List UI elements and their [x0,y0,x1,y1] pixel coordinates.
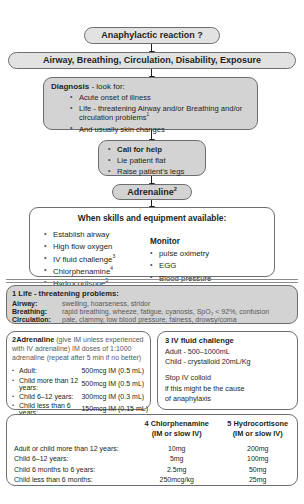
hydrocortisone-dose: 25mg [218,474,297,484]
table-row: Child 6–12 years: 300mcg IM (0.3 mL) [11,392,148,401]
iv-fluid-line: Adult - 500–1000mL [158,347,297,356]
dose-group: Child more than 12 years: [11,375,81,391]
node-abcde-assessment: Airway, Breathing, Circulation, Disabili… [8,52,296,69]
table-row: Adult or child more than 12 years: 10mg … [7,438,297,454]
list-item: Raise patient's legs [108,167,205,176]
chlorphenamine-dose: 250mcg/kg [135,474,218,484]
adrenaline-box-heading: 2Adrenaline (give IM unless experienced … [7,332,150,362]
panel-chlorphenamine-hydrocortisone-table: 4 Chlorphenamine (IM or slow IV) 5 Hydro… [6,414,298,486]
row-value: swelling, hoarseness, stridor [62,300,269,308]
row-key: Airway: [12,300,62,308]
panel-adrenaline-dosing: 2Adrenaline (give IM unless experienced … [6,331,151,410]
node-adrenaline: Adrenaline2 [112,184,192,200]
table-row: Breathing: rapid breathing, wheeze, fati… [12,308,269,316]
table-row: Adult: 500mcg IM (0.5 mL) [11,366,148,375]
panel-life-threatening-problems: 1 Life - threatening problems: Airway: s… [6,285,298,324]
row-value: rapid breathing, wheeze, fatigue, cyanos… [62,308,269,316]
divider-rule-top [6,279,298,280]
table-row: Child more than 12 years: 500mcg IM (0.5… [11,375,148,391]
table-row: Airway: swelling, hoarseness, stridor [12,300,269,308]
skills-heading: When skills and equipment available: [30,208,274,223]
dose-group: Adult: [11,366,81,375]
table-row: Child 6 months to 6 years: 2.5mg 50mg [7,464,297,474]
row-label: Child 6 months to 6 years: [7,464,135,474]
node-abcde-label: Airway, Breathing, Circulation, Disabili… [9,53,295,68]
node-anaphylactic-reaction: Anaphylactic reaction ? [84,27,220,44]
anaphylaxis-algorithm-page: Anaphylactic reaction ? Airway, Breathin… [0,0,304,504]
column-header-blank [7,415,135,438]
dose-value: 500mcg IM (0.5 mL) [81,375,148,391]
row-value: pale, clammy, low blood pressure, faines… [62,316,269,324]
chlorphenamine-number: 4 [144,419,148,428]
list-item: High flow oxygen [44,242,150,251]
adrenaline-box-note3: 5 min if no better) [87,354,141,361]
diagnosis-item-2-text: Life - threatening Airway and/or Breathi… [79,104,242,122]
arrow-adrenaline-to-skills [151,200,152,207]
list-item: Life - threatening Airway and/or Breathi… [70,104,257,122]
panel-iv-fluid-challenge: 3 IV fluid challenge Adult - 500–1000mL … [157,331,298,410]
list-item: Call for help [108,145,205,154]
list-item: Establish airway [44,230,150,239]
table-header-row: 4 Chlorphenamine (IM or slow IV) 5 Hydro… [7,415,297,438]
dose-value: 500mcg IM (0.5 mL) [81,366,148,375]
iv-fluid-line: if this might be the cause [158,384,297,393]
list-item: pulse oximetry [150,249,262,258]
skills-item-text: High flow oxygen [53,242,112,251]
skills-item-text: IV fluid challenge [53,255,112,264]
iv-fluid-title: IV fluid challenge [171,336,233,345]
iv-fluid-line: Stop IV colloid [158,373,297,382]
list-item: EGG [150,261,262,270]
arrow-call-to-adrenaline [151,176,152,184]
node-anaphylactic-reaction-label: Anaphylactic reaction ? [85,28,219,43]
list-item: IV fluid challenge3 [44,255,150,264]
adrenaline-sup: 2 [174,186,177,192]
node-diagnosis: Diagnosis - look for: Acute onset of ill… [43,77,258,130]
row-key: Circulation: [12,316,62,324]
chlorphenamine-dose: 5mg [135,454,218,464]
list-item: Acute onset of illness [70,93,257,102]
hydrocortisone-sub: (IM or slow IV) [233,429,283,438]
list-item: Lie patient flat [108,156,205,165]
life-threatening-table: Airway: swelling, hoarseness, stridor Br… [12,300,269,325]
adrenaline-box-title: Adrenaline [16,335,54,344]
column-header-chlorphenamine: 4 Chlorphenamine (IM or slow IV) [135,415,218,438]
diagnosis-heading-rest: - look for: [89,82,125,91]
dose-group: Child 6–12 years: [11,392,81,401]
arrow-diagnosis-to-call [151,130,152,140]
skills-item-sup: 3 [112,254,115,259]
list-item: And usually skin changes [70,125,257,134]
skills-item-text: Chlorphenamine [53,267,110,276]
node-adrenaline-label: Adrenaline2 [113,185,191,199]
table-row: Child less than 6 months: 250mcg/kg 25mg [7,474,297,484]
row-label: Adult or child more than 12 years: [7,438,135,454]
skills-item-sup: 4 [110,266,113,271]
chlorphenamine-title: Chlorphenamine [151,419,209,428]
diagnosis-list: Acute onset of illness Life - threatenin… [70,93,257,133]
row-label: Child less than 6 months: [7,474,135,484]
chlorphenamine-dose: 10mg [135,438,218,454]
table-row: Circulation: pale, clammy, low blood pre… [12,316,269,324]
hydrocortisone-title: Hydrocortisone [233,419,288,428]
hydrocortisone-dose: 100mg [218,454,297,464]
dose-value: 300mcg IM (0.3 mL) [81,392,148,401]
hydrocortisone-number: 5 [227,419,231,428]
life-threatening-marker: 1 [12,289,16,298]
monitor-heading: Monitor [150,237,262,246]
iv-fluid-line: of anaphylaxis [158,394,297,403]
arrow-abcde-to-diagnosis [151,69,152,77]
divider-rule-bottom [6,282,298,283]
diagnosis-heading-bold: Diagnosis [51,82,89,91]
row-label: Child 6–12 years: [7,454,135,464]
skills-item-text: Establish airway [53,230,109,239]
diagnosis-heading: Diagnosis - look for: [44,78,257,91]
iv-fluid-number: 3 [165,336,169,345]
life-threatening-heading-text: Life - threatening problems: [18,289,118,298]
column-header-hydrocortisone: 5 Hydrocortisone (IM or slow IV) [218,415,297,438]
call-for-help-list: Call for help Lie patient flat Raise pat… [108,145,205,176]
table-row: Child 6–12 years: 5mg 100mg [7,454,297,464]
iv-fluid-line: Child - crystalloid 20mL/Kg [158,357,297,366]
life-threatening-heading: 1 Life - threatening problems: [7,286,297,298]
row-key: Breathing: [12,308,62,316]
monitor-list: pulse oximetry EGG Blood pressure [150,249,262,282]
chlorphenamine-dose: 2.5mg [135,464,218,474]
